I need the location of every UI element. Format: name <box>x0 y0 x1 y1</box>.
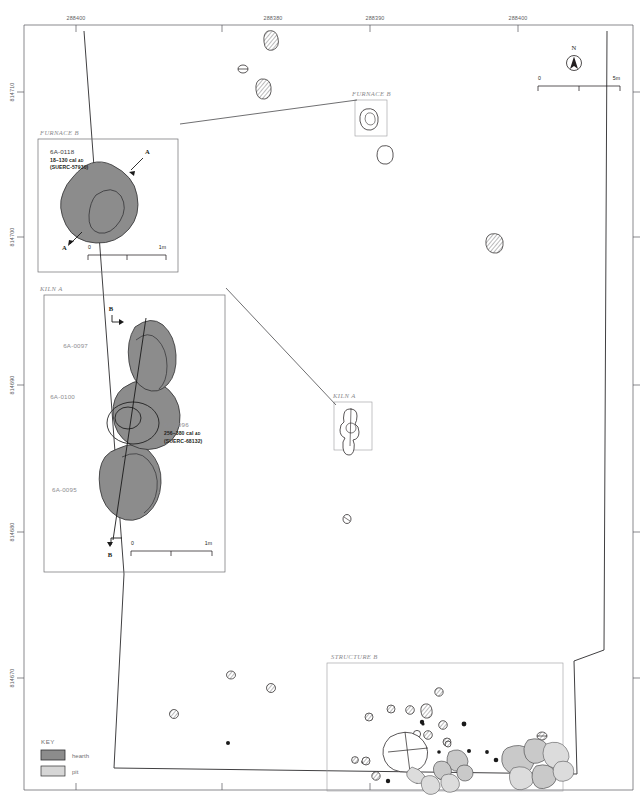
main-scalebar-end: 5m <box>613 75 620 81</box>
furnace-b-scalebar-start: 0 <box>88 244 91 250</box>
coord-label-left-2: 814700 <box>9 228 15 247</box>
key-label-hearth: hearth <box>72 753 89 759</box>
kiln-a-feature-id-0095: 6A-0095 <box>52 486 77 493</box>
kiln-a-scalebar-start: 0 <box>131 540 134 546</box>
right-axis-ticks <box>633 92 640 678</box>
kiln-a-locator-title: KILN A <box>332 392 356 399</box>
coord-label-top-4: 288400 <box>509 15 528 21</box>
main-scalebar: 0 5m <box>538 75 620 91</box>
section-label-b-top: B <box>109 305 114 312</box>
main-scalebar-start: 0 <box>538 75 541 81</box>
kiln-a-feature-id-0097: 6A-0097 <box>63 342 88 349</box>
section-label-a-top: A <box>145 148 150 155</box>
structure-b-title: STRUCTURE B <box>331 653 378 660</box>
kiln-a-date-value: 256–380 cal <box>164 430 194 436</box>
kiln-a-detail-inset: KILN A 6A-0097 6A-0100 6A-0095 6A-0096 2… <box>39 285 225 572</box>
furnace-b-locator-title: FURNACE B <box>351 90 391 97</box>
key-label-pit: pit <box>72 769 79 775</box>
kiln-a-feature-id-0096: 6A-0096 <box>164 421 189 428</box>
feature-pit <box>486 234 503 253</box>
furnace-b-scalebar-end: 1m <box>159 244 166 250</box>
furnace-b-lab-code: (SUERC-57930) <box>50 164 89 170</box>
kiln-a-feature-id-0100: 6A-0100 <box>50 393 75 400</box>
feature-pit <box>170 710 179 719</box>
leader-line-furnace-b <box>180 100 357 124</box>
leader-line-kiln-a <box>226 288 336 405</box>
section-label-a-bottom: A <box>62 244 67 251</box>
coord-label-left-4: 814680 <box>9 523 15 542</box>
kiln-a-scalebar-end: 1m <box>205 540 212 546</box>
kiln-a-date-era: AD <box>195 432 201 436</box>
coord-label-left-5: 814670 <box>9 669 15 688</box>
map-key: KEY hearth pit <box>41 738 89 776</box>
furnace-b-feature-date: 18–130 calAD <box>50 157 84 163</box>
coord-label-top-1: 288400 <box>67 15 86 21</box>
site-plan-figure: 288400 288380 288390 288400 814710 81470… <box>0 0 643 812</box>
structure-b-area: STRUCTURE B <box>327 653 574 794</box>
key-title: KEY <box>41 738 55 745</box>
coord-label-top-2: 288380 <box>264 15 283 21</box>
furnace-b-detail-inset: FURNACE B 6A-0118 18–130 calAD (SUERC-57… <box>38 129 178 272</box>
north-arrow: N <box>567 44 582 71</box>
hearth-6A-0118 <box>61 162 138 243</box>
furnace-b-date-value: 18–130 cal <box>50 157 77 163</box>
coord-label-top-3: 288390 <box>366 15 385 21</box>
feature-pit <box>264 31 279 51</box>
furnace-b-locator: FURNACE B <box>351 90 391 136</box>
section-label-b-bottom: B <box>108 551 113 558</box>
kiln-a-detail-title: KILN A <box>39 285 63 292</box>
furnace-b-detail-title: FURNACE B <box>39 129 79 136</box>
kiln-a-locator-feature <box>340 409 359 455</box>
key-swatch-hearth <box>41 750 65 760</box>
furnace-b-feature-id: 6A-0118 <box>50 148 75 155</box>
coord-label-left-1: 814710 <box>9 83 15 102</box>
kiln-a-locator: KILN A <box>332 392 372 455</box>
quadranted-pit <box>383 732 428 772</box>
section-mark-a-bottom: A <box>62 232 82 251</box>
section-mark-a-top: A <box>129 148 150 176</box>
kiln-a-feature-date: 256–380 calAD <box>164 430 201 436</box>
feature-pit <box>227 671 236 679</box>
hearth-6A-0097 <box>128 320 176 391</box>
left-axis-ticks <box>17 92 24 678</box>
section-mark-b-bottom: B <box>107 538 122 558</box>
feature-pit <box>377 146 393 164</box>
feature-pit <box>256 79 271 99</box>
north-arrow-label: N <box>572 44 577 51</box>
key-swatch-pit <box>41 766 65 776</box>
map-features-scatter <box>170 31 504 745</box>
coord-label-left-3: 814690 <box>9 376 15 395</box>
section-mark-b-top: B <box>109 305 124 325</box>
furnace-b-date-era: AD <box>78 159 84 163</box>
kiln-a-lab-code: (SUERC-68132) <box>164 438 203 444</box>
top-axis-ticks <box>76 25 518 32</box>
feature-posthole <box>226 741 230 745</box>
site-plan-canvas: 288400 288380 288390 288400 814710 81470… <box>0 0 643 812</box>
kiln-a-scalebar: 0 1m <box>131 540 212 556</box>
feature-pit <box>267 684 276 693</box>
hearth-6A-0095 <box>99 444 161 520</box>
